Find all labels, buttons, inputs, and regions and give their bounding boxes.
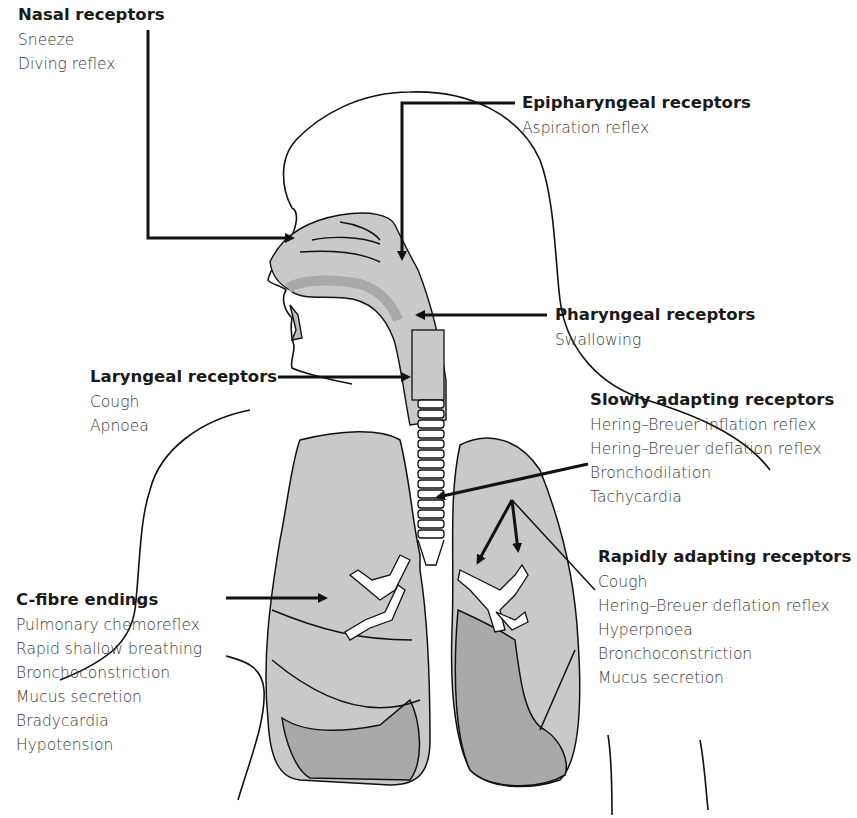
label-item: Hyperpnoea	[598, 618, 851, 642]
label-item: Aspiration reflex	[522, 116, 751, 140]
label-title: Slowly adapting receptors	[590, 387, 834, 413]
label-laryngeal-receptors: Laryngeal receptors Cough Apnoea	[90, 364, 277, 438]
label-epipharyngeal-receptors: Epipharyngeal receptors Aspiration refle…	[522, 90, 751, 140]
label-item: Hering–Breuer deflation reflex	[590, 437, 834, 461]
label-item: Mucus secretion	[598, 666, 851, 690]
label-rapidly-adapting-receptors: Rapidly adapting receptors Cough Hering–…	[598, 544, 851, 690]
label-item: Diving reflex	[18, 52, 165, 76]
label-pharyngeal-receptors: Pharyngeal receptors Swallowing	[555, 302, 755, 352]
label-item: Rapid shallow breathing	[16, 637, 202, 661]
label-item: Cough	[598, 570, 851, 594]
label-title: Pharyngeal receptors	[555, 302, 755, 328]
label-item: Hering–Breuer inflation reflex	[590, 413, 834, 437]
label-item: Tachycardia	[590, 485, 834, 509]
label-title: C-fibre endings	[16, 587, 202, 613]
label-item: Mucus secretion	[16, 685, 202, 709]
epipharyngeal-arrow	[402, 103, 515, 258]
label-title: Nasal receptors	[18, 2, 165, 28]
label-c-fibre-endings: C-fibre endings Pulmonary chemoreflex Ra…	[16, 587, 202, 757]
label-item: Pulmonary chemoreflex	[16, 613, 202, 637]
label-item: Bronchodilation	[590, 461, 834, 485]
label-item: Hypotension	[16, 733, 202, 757]
label-item: Apnoea	[90, 414, 277, 438]
label-slowly-adapting-receptors: Slowly adapting receptors Hering–Breuer …	[590, 387, 834, 509]
label-item: Hering–Breuer deflation reflex	[598, 594, 851, 618]
right-lung	[266, 432, 430, 785]
label-item: Bronchoconstriction	[16, 661, 202, 685]
label-title: Epipharyngeal receptors	[522, 90, 751, 116]
label-item: Bradycardia	[16, 709, 202, 733]
label-item: Cough	[90, 390, 277, 414]
label-item: Swallowing	[555, 328, 755, 352]
trachea	[412, 330, 444, 565]
label-item: Bronchoconstriction	[598, 642, 851, 666]
nasal-arrow	[148, 30, 292, 238]
label-title: Rapidly adapting receptors	[598, 544, 851, 570]
label-nasal-receptors: Nasal receptors Sneeze Diving reflex	[18, 2, 165, 76]
label-title: Laryngeal receptors	[90, 364, 277, 390]
label-item: Sneeze	[18, 28, 165, 52]
